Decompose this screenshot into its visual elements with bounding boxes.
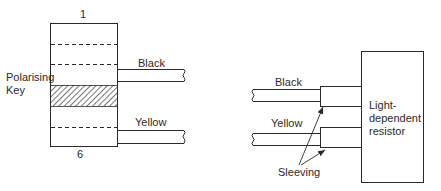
ldr-label-line2: dependent (369, 112, 421, 124)
ldr-label-line1: Light- (369, 99, 397, 111)
arrow-icon (299, 107, 323, 165)
sleeve (321, 87, 362, 107)
right-black-wire (252, 87, 362, 107)
polarising-key-band (51, 85, 117, 106)
left-black-wire (117, 70, 185, 82)
ldr-label-line3: resistor (369, 125, 405, 137)
pin-6-label: 6 (77, 148, 83, 160)
right-black-wire-label: Black (275, 76, 302, 88)
right-yellow-wire-label: Yellow (271, 117, 302, 129)
polarising-key-label-line1: Polarising (6, 71, 54, 83)
polarising-key-label-line2: Key (6, 84, 25, 96)
pin-1-label: 1 (80, 8, 86, 20)
sleeving-label: Sleeving (278, 166, 320, 178)
wire-break-icon (183, 131, 185, 144)
left-yellow-wire-label: Yellow (135, 116, 166, 128)
wire-break-icon (252, 90, 254, 102)
left-black-wire-label: Black (138, 57, 165, 69)
wire-break-icon (252, 134, 254, 146)
right-yellow-wire (252, 128, 362, 148)
wiring-diagram (0, 0, 441, 191)
sleeve (321, 128, 362, 148)
wire-break-icon (183, 70, 185, 82)
connector-block (51, 24, 118, 147)
left-yellow-wire (117, 131, 185, 144)
